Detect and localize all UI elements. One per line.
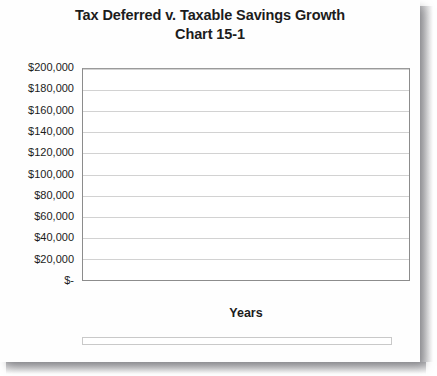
x-axis-title: Years xyxy=(82,306,410,320)
y-axis-tick-label: $100,000 xyxy=(28,169,74,180)
page-shadow-right xyxy=(420,6,433,362)
y-axis-tick-label: $200,000 xyxy=(28,62,74,73)
y-axis-tick-label: $140,000 xyxy=(28,126,74,137)
y-axis-tick-label: $160,000 xyxy=(28,105,74,116)
y-axis-tick-label: $80,000 xyxy=(34,190,74,201)
y-axis-tick-label: $120,000 xyxy=(28,147,74,158)
plot-area xyxy=(82,68,410,281)
y-axis-tick-label: $180,000 xyxy=(28,83,74,94)
scanned-page: Tax Deferred v. Taxable Savings Growth C… xyxy=(0,0,437,376)
y-axis-tick-label: $- xyxy=(64,275,74,286)
chart-legend xyxy=(82,337,392,345)
y-axis-tick-label: $60,000 xyxy=(34,211,74,222)
y-axis-tick-label: $40,000 xyxy=(34,232,74,243)
y-axis-labels: $-$20,000$40,000$60,000$80,000$100,000$1… xyxy=(0,0,78,376)
bar-groups xyxy=(83,69,409,280)
y-axis-tick-label: $20,000 xyxy=(34,254,74,265)
